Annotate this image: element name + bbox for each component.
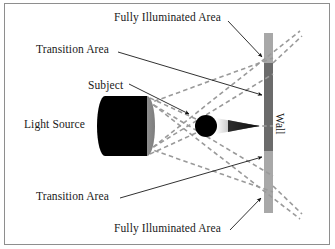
leader-fully-illuminated-top [228,21,262,57]
label-subject: Subject [88,79,123,92]
label-fully-illuminated-bottom: Fully Illuminated Area [114,222,221,235]
label-transition-top: Transition Area [36,43,109,56]
leader-transition-top [118,52,262,95]
leader-fully-illuminated-bottom [230,198,261,230]
ray-bottom-to-wall-upper [147,74,273,151]
subject-sphere [195,115,217,137]
label-light-source: Light Source [24,118,85,131]
ray-tangent-upper [147,58,273,104]
label-transition-bottom: Transition Area [36,190,109,203]
ray-top-to-wall-lower [147,101,273,176]
diagram-canvas: Fully Illuminated Area Transition Area S… [0,0,335,249]
label-wall: Wall [274,113,286,134]
light-source-cylinder [97,96,155,156]
ray-tangent-lower [147,148,273,192]
label-fully-illuminated-top: Fully Illuminated Area [114,11,221,24]
shadow-cone [216,118,260,134]
